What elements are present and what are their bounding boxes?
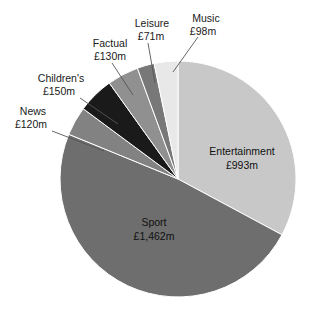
callout-label-factual: Factual £130m — [93, 37, 127, 62]
callout-label-music: Music £98m — [190, 12, 220, 37]
callout-news-value: £120m — [15, 118, 47, 130]
callout-factual-value: £130m — [94, 50, 126, 62]
pie-slices — [60, 61, 296, 297]
callout-factual-name: Factual — [93, 37, 127, 49]
pie-chart: Music £98m Leisure £71m Factual £130m Ch… — [0, 0, 311, 310]
inside-sport-value: £1,462m — [134, 230, 175, 242]
callout-label-news: News £120m — [15, 105, 47, 130]
callout-music-name: Music — [192, 12, 219, 24]
inside-entertainment-value: £993m — [226, 159, 258, 171]
callout-leisure-name: Leisure — [135, 17, 170, 29]
callout-childrens-name: Children's — [38, 72, 84, 84]
inside-sport-name: Sport — [141, 216, 166, 228]
callout-childrens-value: £150m — [43, 85, 75, 97]
callout-leisure-value: £71m — [138, 30, 165, 42]
callout-label-leisure: Leisure £71m — [135, 17, 170, 42]
pie-chart-svg: Music £98m Leisure £71m Factual £130m Ch… — [0, 0, 311, 310]
callout-music-value: £98m — [190, 25, 217, 37]
callout-news-name: News — [20, 105, 46, 117]
inside-entertainment-name: Entertainment — [209, 145, 274, 157]
callout-label-childrens: Children's £150m — [38, 72, 84, 97]
